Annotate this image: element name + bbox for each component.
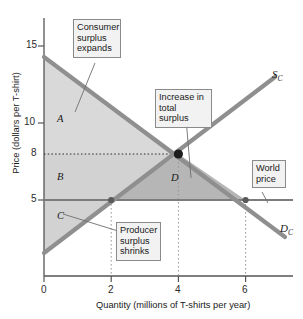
callout-producer-line1: Producer [120, 225, 157, 236]
callout-consumer-line3: expands [77, 43, 117, 54]
world-price-callout-leader [262, 192, 268, 203]
callout-consumer-line1: Consumer [77, 22, 117, 33]
x-tick-marks [44, 276, 246, 282]
y-tick-label-15: 15 [26, 39, 37, 50]
callout-world-price-line1: World [256, 163, 282, 174]
supply-curve-label: SC [272, 68, 283, 83]
callout-producer-line3: shrinks [120, 246, 157, 257]
callout-total-surplus-line2: total surplus [159, 103, 208, 124]
domestic-supply-point-marker [108, 197, 114, 203]
equilibrium-point-marker [174, 149, 183, 158]
callout-world-price-line2: price [256, 174, 282, 185]
y-tick-label-10: 10 [24, 116, 35, 127]
callout-world-price: World price [252, 160, 286, 188]
callout-increase-in-total-surplus: Increase in total surplus [155, 89, 212, 128]
y-tick-marks [38, 46, 44, 200]
callout-producer-line2: surplus [120, 236, 157, 247]
callout-producer-surplus-shrinks: Producer surplus shrinks [116, 222, 161, 261]
region-label-a: A [57, 113, 63, 124]
callout-consumer-surplus-expands: Consumer surplus expands [73, 19, 121, 58]
callout-consumer-line2: surplus [77, 33, 117, 44]
y-axis-title: Price (dollars per T-shirt) [11, 63, 21, 183]
x-tick-label-4: 4 [175, 284, 181, 295]
supply-curve-label-sub: C [278, 74, 283, 83]
x-tick-label-6: 6 [242, 284, 248, 295]
x-axis-title: Quantity (millions of T-shirts per year) [96, 300, 250, 310]
demand-curve-label: DC [280, 222, 293, 237]
callout-total-surplus-line1: Increase in [159, 92, 208, 103]
x-tick-label-0: 0 [41, 284, 47, 295]
economics-surplus-chart: 15 10 8 5 0 2 4 6 Price (dollars per T-s… [0, 0, 303, 319]
region-label-d: D [171, 172, 179, 183]
region-label-c: C [57, 210, 64, 221]
region-label-b: B [57, 171, 63, 182]
domestic-demand-point-marker [243, 197, 249, 203]
x-tick-label-2: 2 [108, 284, 114, 295]
y-tick-label-8: 8 [31, 147, 37, 158]
y-tick-label-5: 5 [31, 193, 37, 204]
demand-curve-label-main: D [280, 222, 288, 234]
demand-curve-label-sub: C [288, 228, 293, 237]
